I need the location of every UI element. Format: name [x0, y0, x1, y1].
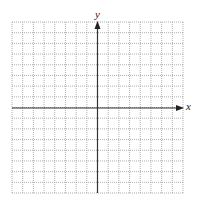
y-axis-arrow-icon	[95, 21, 101, 29]
coordinate-plane	[0, 0, 199, 206]
y-axis-label: y	[95, 9, 100, 20]
x-axis-label: x	[186, 101, 191, 112]
